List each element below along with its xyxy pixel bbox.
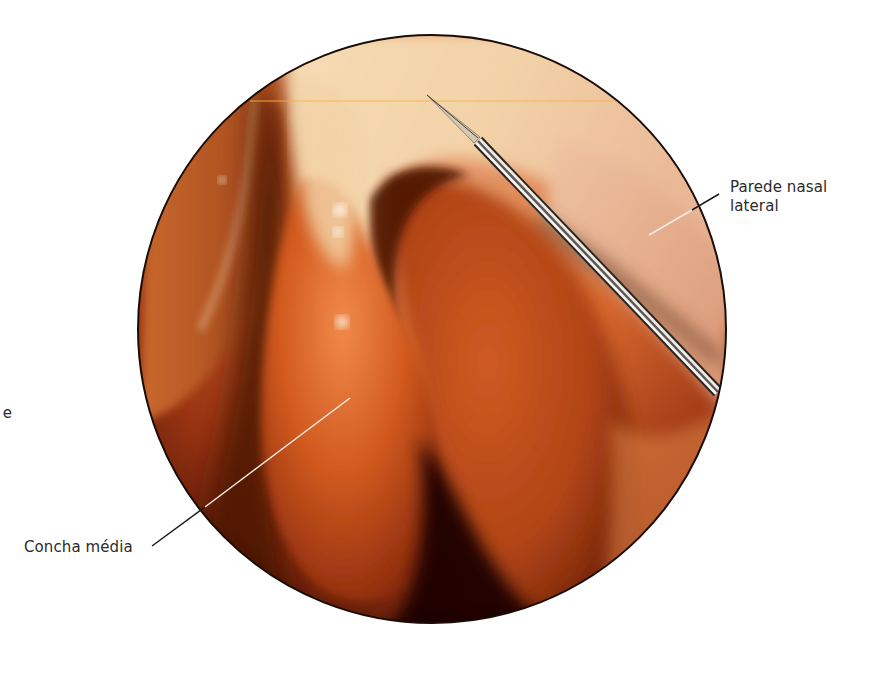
label-parede-line2: lateral bbox=[730, 197, 870, 216]
endoscopic-view bbox=[130, 30, 730, 650]
specular-highlight bbox=[218, 176, 226, 184]
leader-concha-outer bbox=[152, 507, 205, 546]
label-concha-media: Concha média bbox=[24, 538, 133, 557]
label-parede-line1: Parede nasal bbox=[730, 178, 870, 197]
specular-highlight bbox=[333, 227, 343, 237]
label-cut-off-fragment: e bbox=[0, 404, 12, 423]
specular-highlight bbox=[336, 316, 348, 328]
specular-highlight bbox=[334, 204, 346, 216]
label-parede-nasal-lateral: Parede nasal lateral bbox=[730, 178, 870, 216]
endoscopic-figure bbox=[0, 0, 873, 675]
